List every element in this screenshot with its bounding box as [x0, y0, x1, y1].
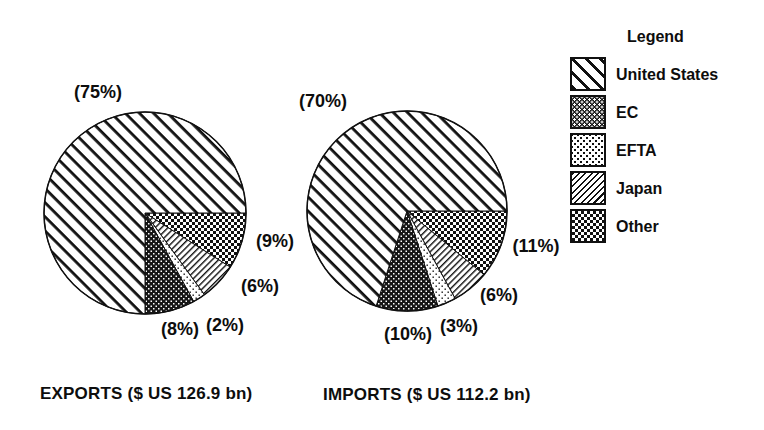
legend-label-japan: Japan — [616, 180, 662, 198]
other-checker-swatch-icon — [570, 209, 606, 243]
pie-charts-canvas — [0, 0, 764, 430]
imports-efta-label: (3%) — [440, 316, 478, 337]
legend-label-ec: EC — [616, 104, 638, 122]
imports-us-label: (70%) — [299, 91, 347, 112]
japan-hatch-swatch-icon — [570, 171, 606, 205]
efta-dots-swatch-icon — [570, 133, 606, 167]
legend-label-efta: EFTA — [616, 142, 657, 160]
dual-pie-chart-figure: (75%) (8%) (2%) (6%) (9%) (70%) (10%) (3… — [0, 0, 764, 430]
exports-other-label: (9%) — [256, 231, 294, 252]
imports-other-label: (11%) — [512, 236, 559, 257]
exports-japan-label: (6%) — [241, 276, 279, 297]
exports-ec-label: (8%) — [161, 319, 199, 340]
pie-exports — [44, 112, 246, 314]
pie-imports — [307, 111, 507, 311]
imports-caption: IMPORTS ($ US 112.2 bn) — [323, 385, 531, 405]
legend-title: Legend — [627, 28, 684, 46]
imports-japan-label: (6%) — [480, 285, 518, 306]
exports-efta-label: (2%) — [206, 315, 244, 336]
exports-caption: EXPORTS ($ US 126.9 bn) — [40, 384, 252, 404]
us-hatch-swatch-icon — [570, 57, 606, 91]
imports-ec-label: (10%) — [384, 324, 432, 345]
legend-label-united-states: United States — [616, 66, 718, 84]
exports-us-label: (75%) — [74, 82, 122, 103]
legend-label-other: Other — [616, 218, 659, 236]
ec-dots-swatch-icon — [570, 95, 606, 129]
